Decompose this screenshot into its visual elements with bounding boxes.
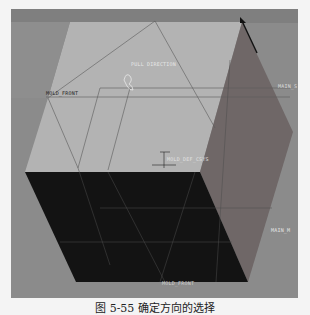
label-main-side: MAIN_S bbox=[278, 83, 297, 90]
viewport-top-band bbox=[11, 9, 298, 23]
label-mold-front-bottom: MOLD_FRONT bbox=[162, 280, 194, 287]
label-mold-front: MOLD_FRONT bbox=[46, 90, 78, 97]
label-pull-direction: PULL DIRECTION bbox=[131, 61, 176, 67]
figure-caption: 图 5-55 确定方向的选择 bbox=[0, 303, 310, 315]
label-main-m: MAIN_M bbox=[271, 227, 290, 234]
label-mold-def-csys: MOLD_DEF_CSYS bbox=[167, 156, 209, 163]
